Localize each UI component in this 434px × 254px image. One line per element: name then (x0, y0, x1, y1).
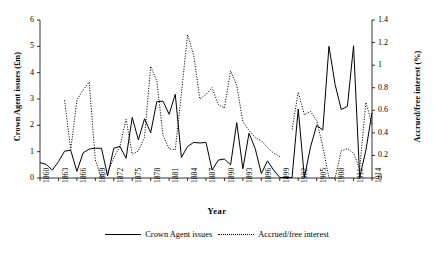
y-tick-label-left: 3 (18, 95, 34, 103)
x-tick-label: 1914 (375, 168, 383, 183)
x-tick-label: 1905 (320, 168, 328, 183)
dotted-line-icon (218, 234, 254, 235)
x-tick-label: 1878 (154, 168, 162, 183)
x-tick-label: 1890 (228, 168, 236, 183)
legend-label: Crown Agent issues (145, 230, 212, 239)
x-tick-label: 1899 (283, 168, 291, 183)
x-tick-label: 1872 (117, 168, 125, 183)
y-tick-label-left: 5 (18, 42, 34, 50)
series-line-1 (292, 92, 372, 178)
x-tick-label: 1884 (191, 168, 199, 183)
y-tick-label-right: 1 (378, 61, 398, 69)
y-tick-label-right: 0.8 (378, 84, 398, 92)
x-tick-label: 1896 (265, 168, 273, 183)
plot-area (0, 0, 434, 254)
legend-label: Accrued/free interest (258, 230, 328, 239)
y-tick-label-left: 6 (18, 16, 34, 24)
x-tick-label: 1869 (99, 168, 107, 183)
solid-line-icon (105, 234, 141, 235)
x-tick-label: 1911 (357, 168, 365, 183)
chart-legend: Crown Agent issues Accrued/free interest (0, 230, 434, 239)
y-tick-label-right: 0.6 (378, 106, 398, 114)
y-tick-label-right: 0.4 (378, 129, 398, 137)
chart-figure: Crown Agent issues (£m) Accrued/free int… (0, 0, 434, 254)
x-tick-label: 1875 (135, 168, 143, 183)
x-tick-label: 1866 (80, 168, 88, 183)
x-tick-label: 1863 (62, 168, 70, 183)
series-line-1 (65, 35, 280, 178)
x-tick-label: 1893 (246, 168, 254, 183)
legend-item-crown-agent-issues: Crown Agent issues (105, 230, 212, 239)
legend-item-accrued-free-interest: Accrued/free interest (218, 230, 328, 239)
y-tick-label-left: 4 (18, 69, 34, 77)
y-tick-label-left: 2 (18, 121, 34, 129)
y-tick-label-left: 0 (18, 174, 34, 182)
y-tick-label-right: 1.4 (378, 16, 398, 24)
x-tick-label: 1902 (301, 168, 309, 183)
y-tick-label-left: 1 (18, 148, 34, 156)
x-tick-label: 1860 (43, 168, 51, 183)
y-tick-label-right: 0.2 (378, 151, 398, 159)
x-tick-label: 1881 (172, 168, 180, 183)
x-tick-label: 1908 (338, 168, 346, 183)
series-line-0 (40, 46, 372, 178)
y-tick-label-right: 1.2 (378, 39, 398, 47)
plot-svg (0, 0, 434, 254)
x-tick-label: 1887 (209, 168, 217, 183)
